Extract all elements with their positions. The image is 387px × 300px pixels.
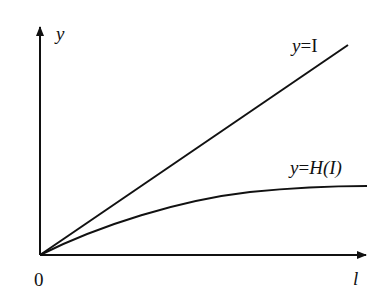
identity-line-label: y=I — [290, 35, 317, 56]
x-axis-label: l — [353, 268, 358, 289]
origin-label: 0 — [34, 269, 44, 290]
identity-line — [40, 45, 348, 255]
h-curve-label: y=H(I) — [288, 157, 342, 179]
y-axis-label: y — [54, 23, 65, 44]
diagram-canvas: y l 0 y=I y=H(I) — [0, 0, 387, 300]
